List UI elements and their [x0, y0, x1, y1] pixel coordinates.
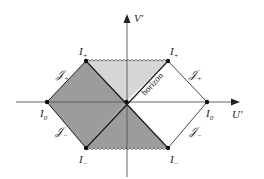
u-axis-label: U′	[232, 108, 243, 120]
u-axis-arrow-icon	[231, 99, 240, 106]
point-center	[124, 100, 128, 104]
label-scri-plus-left: 𝒥+	[55, 68, 69, 83]
label-scri-minus-right: 𝒥−	[188, 125, 202, 140]
point-i-minus-right	[166, 146, 170, 150]
future-singularity-zigzag	[86, 60, 166, 62]
penrose-diagram: V′ U′ I+ I+ I0 I0 I− I− 𝒥+ 𝒥+ 𝒥− 𝒥− hori…	[0, 0, 264, 179]
label-i-plus-left: I+	[78, 45, 88, 60]
label-i0-right: I0	[205, 107, 214, 122]
label-i0-left: I0	[39, 107, 48, 122]
v-axis-arrow-icon	[124, 14, 131, 23]
label-scri-minus-left: 𝒥−	[54, 125, 68, 140]
point-i-plus-right	[166, 59, 170, 63]
point-i0-right	[205, 100, 209, 104]
label-scri-plus-right: 𝒥+	[188, 68, 202, 83]
point-i0-left	[45, 100, 49, 104]
label-i-plus-right: I+	[169, 45, 179, 60]
v-axis-label: V′	[134, 12, 144, 24]
point-i-minus-left	[84, 146, 88, 150]
label-i-minus-left: I−	[78, 153, 88, 168]
label-i-minus-right: I−	[169, 153, 179, 168]
